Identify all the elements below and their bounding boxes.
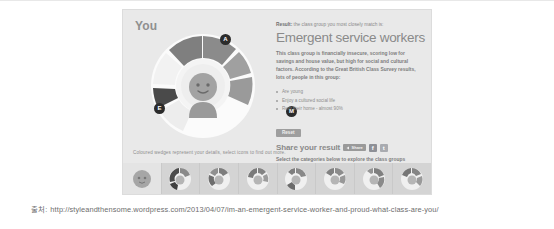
marker-left-icon[interactable]: E	[154, 103, 165, 114]
share-arrow-icon	[346, 146, 350, 150]
thumb-class-2[interactable]	[162, 163, 201, 194]
slide-page: You	[0, 0, 554, 229]
result-bullet-list: Are young Enjoy a cultured social life R…	[276, 88, 426, 113]
thumb-you[interactable]	[123, 163, 162, 194]
select-categories-text: Select the categories below to explore t…	[276, 157, 426, 162]
list-item: Rent their home - almost 90%	[276, 105, 426, 113]
result-kicker-bold: Result:	[276, 22, 292, 27]
thumb-class-4[interactable]	[239, 163, 278, 194]
list-item: Are young	[276, 88, 426, 96]
thumb-class-5[interactable]	[278, 163, 317, 194]
source-caption: 출처:http://styleandthensome.wordpress.com…	[31, 203, 541, 214]
thumb-class-7[interactable]	[355, 163, 394, 194]
facebook-icon[interactable]: f	[369, 144, 377, 152]
source-url: http://styleandthensome.wordpress.com/20…	[50, 205, 438, 214]
wheel-column: You	[123, 10, 275, 165]
thumb-class-8-icon	[399, 166, 425, 192]
thumb-class-3[interactable]	[200, 163, 239, 194]
source-label: 출처:	[31, 205, 47, 214]
result-kicker: Result: the class group you most closely…	[276, 21, 426, 28]
class-wheel-graphic	[147, 30, 259, 142]
class-wheel[interactable]: A E M	[147, 30, 259, 142]
thumb-class-6[interactable]	[316, 163, 355, 194]
share-row: Share your result Share f t	[276, 143, 426, 152]
thumb-class-3-icon	[206, 166, 232, 192]
thumb-class-4-icon	[245, 166, 271, 192]
marker-top-icon[interactable]: A	[220, 34, 231, 45]
thumb-you-icon	[129, 166, 155, 192]
class-thumbnail-strip	[123, 163, 431, 194]
thumb-class-6-icon	[322, 166, 348, 192]
thumb-class-2-icon	[167, 166, 193, 192]
thumb-class-5-icon	[283, 166, 309, 192]
result-kicker-rest: the class group you most closely match i…	[292, 22, 383, 27]
class-calculator-screenshot: You	[122, 9, 432, 195]
page-top-rule	[0, 0, 554, 1]
twitter-icon[interactable]: t	[380, 144, 388, 152]
list-item: Enjoy a cultured social life	[276, 97, 426, 105]
share-button[interactable]: Share	[343, 144, 366, 151]
result-title: Emergent service workers	[276, 31, 426, 45]
share-button-label: Share	[352, 146, 363, 150]
result-body: This class group is financially insecure…	[276, 50, 422, 82]
share-title: Share your result	[276, 143, 340, 152]
thumb-class-7-icon	[361, 166, 387, 192]
thumb-class-8[interactable]	[393, 163, 431, 194]
reset-button[interactable]: Reset	[276, 129, 301, 138]
result-column: Result: the class group you most closely…	[276, 21, 426, 162]
